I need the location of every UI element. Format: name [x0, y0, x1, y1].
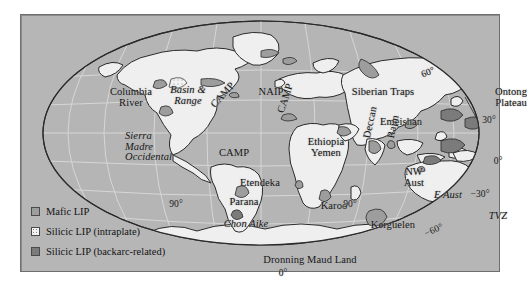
- province-label-nw-aust-line-1: Aust: [404, 178, 424, 189]
- grat-label-lat-30-s: −30°: [470, 190, 489, 200]
- province-label-etendeka: Etendeka: [240, 178, 280, 189]
- province-label-basin-and-range-line-1: Range: [170, 96, 205, 107]
- province-label-ethiopia-yemen-line-1: Yemen: [308, 148, 344, 159]
- province-label-dronning-maud-land: Dronning Maud Land: [263, 255, 356, 266]
- lip-etendeka: [295, 181, 303, 189]
- province-label-ethiopia-yemen: EthiopiaYemen: [308, 137, 344, 158]
- lip-rajmahal: [387, 141, 395, 149]
- province-label-columbia-river-line-1: River: [110, 98, 152, 109]
- land-new-zealand: [479, 198, 493, 208]
- map-panel: ColumbiaRiverBasin &RangeSierraMadreOcci…: [20, 14, 500, 272]
- province-label-kerguelen: Kerguelen: [371, 220, 415, 231]
- grat-label-lat-30-s-line-0: −30°: [470, 190, 489, 200]
- province-label-sierra-madre: SierraMadreOccidental: [125, 131, 172, 163]
- province-label-camp-south-line-0: CAMP: [219, 148, 249, 159]
- legend-swatch-mafic-icon: [31, 207, 40, 216]
- province-label-siberian-traps-line-0: Siberian Traps: [352, 87, 414, 98]
- province-label-naip: NAIP: [259, 87, 284, 98]
- land-new-guinea: [453, 150, 479, 161]
- legend-label-silicic-intraplate: Silicic LIP (intraplate): [46, 226, 140, 237]
- province-label-camp-south: CAMP: [219, 148, 249, 159]
- legend-item-mafic: Mafic LIP: [31, 203, 246, 220]
- legend-swatch-intraplate-icon: [31, 227, 40, 236]
- province-label-naip-line-0: NAIP: [259, 87, 284, 98]
- legend-label-silicic-backarc: Silicic LIP (backarc-related): [46, 246, 165, 257]
- province-label-ontong-plateau-line-1: Plateau: [495, 98, 527, 109]
- legend-item-silicic-backarc: Silicic LIP (backarc-related): [31, 243, 246, 260]
- legend-label-mafic: Mafic LIP: [46, 206, 89, 217]
- province-label-tvz: TVZ: [489, 211, 507, 222]
- grat-label-lon-0-bottom: 0°: [279, 269, 288, 279]
- legend-swatch-backarc-icon: [31, 247, 40, 256]
- province-label-kerguelen-line-0: Kerguelen: [371, 220, 415, 231]
- province-label-sierra-madre-line-2: Occidental: [125, 152, 172, 163]
- legend: Mafic LIP Silicic LIP (intraplate) Silic…: [31, 203, 246, 263]
- grat-label-lon-0-bottom-line-0: 0°: [279, 269, 288, 279]
- grat-label-lon-90-e-line-0: 90°: [343, 200, 357, 210]
- legend-item-silicic-intraplate: Silicic LIP (intraplate): [31, 223, 246, 240]
- grat-label-lat-0-e: 0°: [494, 157, 503, 167]
- province-label-etendeka-line-0: Etendeka: [240, 178, 280, 189]
- province-label-basin-and-range: Basin &Range: [170, 85, 205, 106]
- grat-label-lat-30-n: 30°: [482, 116, 496, 126]
- province-label-columbia-river: ColumbiaRiver: [110, 87, 152, 108]
- province-label-e-aust-line-0: E Aust: [434, 190, 462, 201]
- province-label-tvz-line-0: TVZ: [489, 211, 507, 222]
- province-label-nw-aust: NWAust: [404, 167, 424, 188]
- province-label-dronning-maud-land-line-0: Dronning Maud Land: [263, 255, 356, 266]
- lip-intraplate-nz: [463, 203, 475, 209]
- province-label-e-aust: E Aust: [434, 190, 462, 201]
- leader-tvz: [483, 205, 491, 207]
- grat-label-lat-0-e-line-0: 0°: [494, 157, 503, 167]
- lip-backarc-e-aust: [463, 174, 473, 182]
- grat-label-lon-90-e: 90°: [343, 200, 357, 210]
- province-label-ontong-plateau: OntongPlateau: [495, 87, 527, 108]
- province-label-siberian-traps: Siberian Traps: [352, 87, 414, 98]
- grat-label-lat-30-n-line-0: 30°: [482, 116, 496, 126]
